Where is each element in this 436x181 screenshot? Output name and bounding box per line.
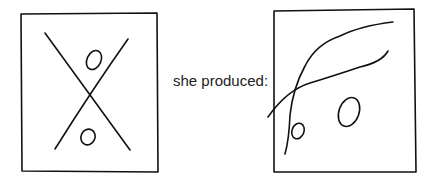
original-lower-oval	[78, 127, 97, 147]
produced-curve-2	[268, 51, 388, 117]
produced-figure	[268, 9, 416, 172]
produced-small-oval	[290, 121, 307, 140]
original-frame	[21, 13, 158, 172]
original-x-line-1	[45, 33, 130, 150]
original-figure	[21, 13, 158, 172]
produced-large-oval	[334, 94, 363, 129]
produced-curve-1	[285, 22, 393, 154]
drawings-canvas	[0, 0, 436, 181]
caption-text: she produced:	[173, 72, 268, 89]
original-upper-oval	[83, 48, 104, 72]
